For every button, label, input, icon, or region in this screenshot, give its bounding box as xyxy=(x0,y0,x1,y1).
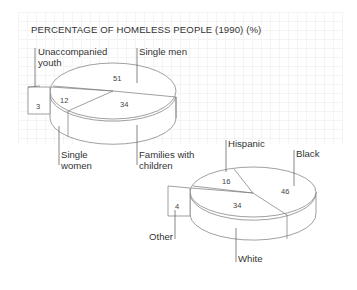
label-line: Families with xyxy=(139,149,194,160)
pie2-top xyxy=(190,167,316,217)
label-line: women xyxy=(61,160,92,171)
label-families-with-children: Families with children xyxy=(139,149,194,171)
label-white: White xyxy=(238,253,263,264)
value-youth: 3 xyxy=(36,102,40,111)
label-unaccompanied-youth: Unaccompanied youth xyxy=(38,46,107,68)
value-white: 34 xyxy=(233,201,241,210)
value-families: 34 xyxy=(120,100,128,109)
label-line: Unaccompanied xyxy=(38,46,107,57)
value-black: 46 xyxy=(281,187,289,196)
label-other: Other xyxy=(149,231,173,242)
label-single-men: Single men xyxy=(139,46,187,57)
label-black: Black xyxy=(296,148,319,159)
pie-charts: 51 34 12 3 46 34 16 4 xyxy=(0,0,357,290)
value-single-men: 51 xyxy=(113,74,121,83)
label-line: youth xyxy=(38,57,107,68)
pie2-other-wedge xyxy=(168,186,190,216)
value-hispanic: 16 xyxy=(222,177,230,186)
value-other: 4 xyxy=(175,202,179,211)
label-line: children xyxy=(139,160,194,171)
label-hispanic: Hispanic xyxy=(228,138,265,149)
value-single-women: 12 xyxy=(60,96,68,105)
label-line: Single xyxy=(61,149,92,160)
label-single-women: Single women xyxy=(61,149,92,171)
pie-household-type xyxy=(28,63,176,144)
